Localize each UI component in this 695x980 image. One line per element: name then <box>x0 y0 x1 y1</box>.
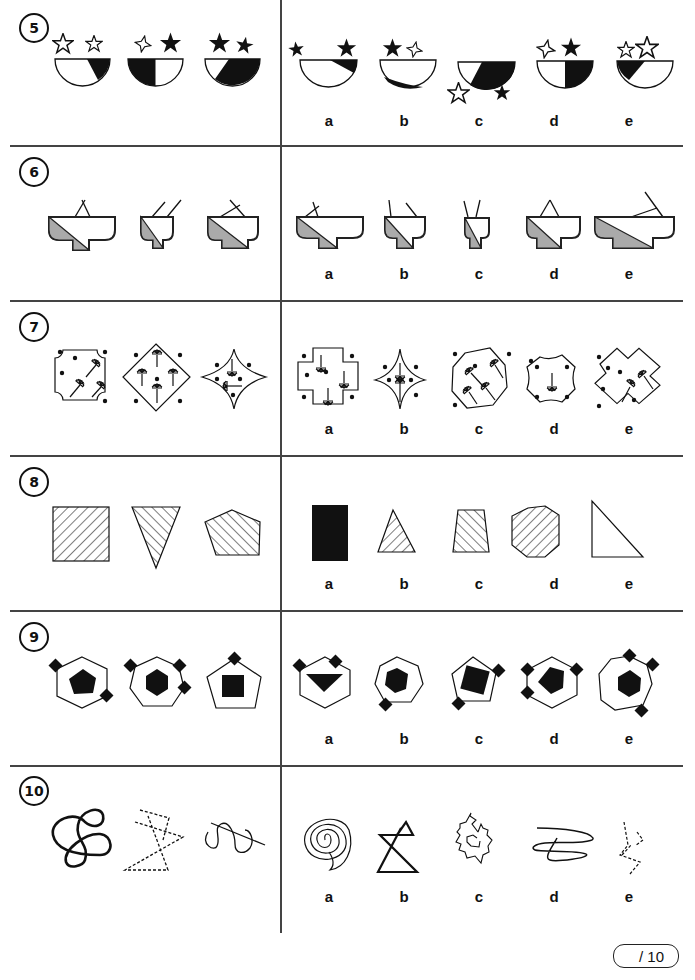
score-total: / 10 <box>639 948 664 965</box>
question-number-7: 7 <box>19 312 49 342</box>
row-divider <box>10 300 683 302</box>
question-number-8: 8 <box>19 467 49 497</box>
question-number-9: 9 <box>19 622 49 652</box>
q8-example-figures <box>50 505 275 575</box>
score-box[interactable]: / 10 <box>613 944 679 968</box>
q7-option-e[interactable]: e <box>619 420 639 437</box>
row-divider <box>10 455 683 457</box>
q9-example-figures <box>45 655 275 720</box>
row-divider <box>10 610 683 612</box>
q10-option-b[interactable]: b <box>394 888 414 905</box>
q9-option-c[interactable]: c <box>469 730 489 747</box>
q7-option-d[interactable]: d <box>544 420 564 437</box>
q6-option-d[interactable]: d <box>544 265 564 282</box>
q5-example-figures <box>45 25 275 95</box>
q5-answer-options <box>295 30 680 105</box>
q8-option-b[interactable]: b <box>394 575 414 592</box>
q8-option-e[interactable]: e <box>619 575 639 592</box>
q5-option-c[interactable]: c <box>469 112 489 129</box>
question-number-10: 10 <box>19 776 49 806</box>
q9-option-e[interactable]: e <box>619 730 639 747</box>
q6-answer-options <box>295 200 680 260</box>
q9-option-d[interactable]: d <box>544 730 564 747</box>
q10-option-e[interactable]: e <box>619 888 639 905</box>
q7-option-c[interactable]: c <box>469 420 489 437</box>
q8-option-d[interactable]: d <box>544 575 564 592</box>
q10-example-figures <box>45 810 275 880</box>
q6-option-b[interactable]: b <box>394 265 414 282</box>
q10-answer-options <box>295 810 680 885</box>
q5-option-d[interactable]: d <box>544 112 564 129</box>
column-divider <box>280 0 282 933</box>
q10-option-a[interactable]: a <box>319 888 339 905</box>
q10-option-c[interactable]: c <box>469 888 489 905</box>
q8-answer-options <box>295 500 680 570</box>
q6-example-figures <box>45 200 275 260</box>
q5-option-e[interactable]: e <box>619 112 639 129</box>
q8-option-c[interactable]: c <box>469 575 489 592</box>
q9-option-a[interactable]: a <box>319 730 339 747</box>
q7-answer-options <box>295 345 680 415</box>
row-divider <box>10 145 683 147</box>
q5-option-b[interactable]: b <box>394 112 414 129</box>
q5-option-a[interactable]: a <box>319 112 339 129</box>
q7-example-figures <box>50 345 275 415</box>
q7-option-a[interactable]: a <box>319 420 339 437</box>
q9-option-b[interactable]: b <box>394 730 414 747</box>
q6-option-e[interactable]: e <box>619 265 639 282</box>
q8-option-a[interactable]: a <box>319 575 339 592</box>
row-divider <box>10 765 683 767</box>
q10-option-d[interactable]: d <box>544 888 564 905</box>
q6-option-a[interactable]: a <box>319 265 339 282</box>
q7-option-b[interactable]: b <box>394 420 414 437</box>
q6-option-c[interactable]: c <box>469 265 489 282</box>
q9-answer-options <box>295 660 680 725</box>
question-number-6: 6 <box>19 157 49 187</box>
